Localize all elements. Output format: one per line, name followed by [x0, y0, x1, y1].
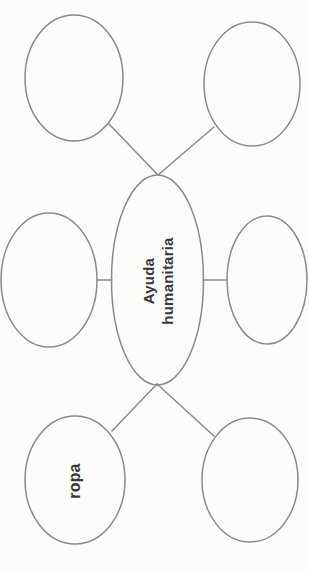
node-ellipse-middle-right — [227, 216, 307, 344]
concept-map-shapes — [0, 0, 309, 573]
node-ellipse-top-right — [204, 22, 300, 146]
node-ellipse-bottom-right — [202, 418, 298, 542]
node-ellipse-top-left — [25, 15, 123, 141]
connector-top-left — [109, 124, 158, 175]
connector-bottom-right — [157, 384, 214, 436]
shape-group — [1, 15, 307, 544]
node-ellipse-bottom-left — [25, 416, 125, 544]
connector-bottom-left — [112, 384, 157, 431]
node-ellipse-middle-left — [1, 213, 97, 347]
concept-map: Ayuda humanitaria ropa — [0, 0, 309, 573]
central-node-ellipse — [112, 175, 204, 385]
connector-top-right — [158, 127, 214, 175]
